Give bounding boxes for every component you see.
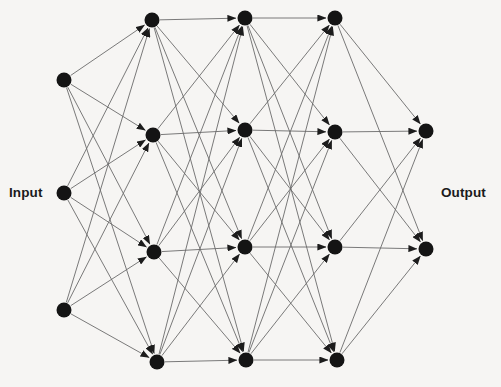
network-node [239,353,254,368]
network-node [146,128,161,143]
edge [338,25,423,240]
edge [156,142,243,351]
edge [71,257,147,306]
edge [159,137,240,245]
network-node [328,240,343,255]
network-node [57,73,72,88]
edge [250,136,330,240]
edge [68,143,149,303]
network-node [328,11,343,26]
edge [160,18,236,20]
edge [158,25,240,129]
edge [250,139,330,241]
edges-group [66,18,422,362]
input-layer-label: Input [9,185,43,200]
edge [342,256,420,354]
edge [249,140,332,352]
edge [71,25,145,75]
edge [340,24,420,124]
edge [160,138,242,354]
output-layer-label: Output [441,185,486,200]
edge [158,141,239,240]
network-node [419,124,434,139]
network-node [145,13,160,28]
network-node [238,240,253,255]
edge [71,314,149,358]
network-node [57,303,72,318]
nodes-group [57,11,434,370]
edge [165,360,237,362]
neural-network-diagram: Input Output [0,0,501,387]
edge [157,26,242,244]
network-node [238,11,253,26]
network-node [419,242,434,257]
network-node [238,123,253,138]
network-node [147,245,162,260]
network-node [328,125,343,140]
network-node [330,353,345,368]
edge [68,28,148,186]
edge [162,254,240,356]
network-node [57,186,72,201]
edge [340,139,423,352]
edge [343,131,417,132]
network-graph [0,0,501,387]
network-node [150,355,165,370]
